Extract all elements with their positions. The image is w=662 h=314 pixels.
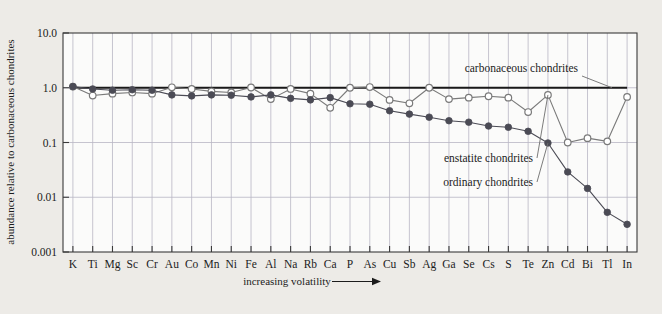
- data-point: [89, 92, 96, 99]
- data-point: [109, 87, 116, 94]
- x-category-label-zn: Zn: [542, 258, 555, 270]
- x-category-label-sb: Sb: [403, 258, 415, 270]
- x-category-label-cr: Cr: [146, 258, 158, 270]
- x-category-label-rb: Rb: [304, 258, 318, 270]
- data-point: [465, 119, 472, 126]
- annotation-ordinary-chondrites: ordinary chondrites: [443, 176, 533, 189]
- data-point: [188, 86, 195, 93]
- data-point: [70, 83, 77, 90]
- data-point: [446, 117, 453, 124]
- data-point: [485, 93, 492, 100]
- x-category-label-s: S: [505, 258, 511, 270]
- data-point: [485, 123, 492, 130]
- x-category-label-ag: Ag: [422, 258, 436, 271]
- x-category-label-as: As: [363, 258, 376, 270]
- data-point: [525, 128, 532, 135]
- x-category-label-ni: Ni: [225, 258, 237, 270]
- x-category-label-ga: Ga: [442, 258, 455, 270]
- abundance-log-chart: 10.01.00.10.010.001 KTiMgScCrAuCoMnNiFeA…: [0, 0, 662, 314]
- data-point: [89, 86, 96, 93]
- data-point: [347, 100, 354, 107]
- data-point: [268, 92, 275, 99]
- chondrite-abundance-figure: 10.01.00.10.010.001 KTiMgScCrAuCoMnNiFeA…: [0, 0, 662, 314]
- annotation-enstatite-chondrites: enstatite chondrites: [444, 152, 534, 164]
- x-category-label-sc: Sc: [127, 258, 139, 270]
- data-point: [505, 94, 512, 101]
- data-point: [248, 94, 255, 101]
- y-tick-label: 0.1: [43, 137, 58, 149]
- data-point: [624, 94, 631, 101]
- data-point: [564, 169, 571, 176]
- x-category-label-mn: Mn: [203, 258, 219, 270]
- data-point: [505, 124, 512, 131]
- data-point: [366, 101, 373, 108]
- data-point: [584, 185, 591, 192]
- data-point: [188, 93, 195, 100]
- data-point: [386, 107, 393, 114]
- data-point: [525, 109, 532, 116]
- x-category-label-ca: Ca: [324, 258, 337, 270]
- data-point: [129, 86, 136, 93]
- data-point: [426, 84, 433, 91]
- data-point: [366, 84, 373, 91]
- data-point: [307, 97, 314, 104]
- data-point: [307, 90, 314, 97]
- y-tick-label: 1.0: [43, 82, 58, 94]
- data-point: [426, 114, 433, 121]
- data-point: [169, 84, 176, 91]
- data-point: [169, 92, 176, 99]
- x-category-label-au: Au: [165, 258, 179, 270]
- x-category-label-te: Te: [522, 258, 533, 270]
- data-point: [287, 95, 294, 102]
- data-point: [584, 135, 591, 142]
- data-point: [327, 105, 334, 112]
- x-axis-category-labels: KTiMgScCrAuCoMnNiFeAlNaRbCaPAsCuSbAgGaSe…: [69, 258, 632, 271]
- x-category-label-na: Na: [284, 258, 297, 270]
- x-category-label-bi: Bi: [582, 258, 593, 270]
- data-point: [604, 209, 611, 216]
- data-point: [624, 221, 631, 228]
- x-category-label-co: Co: [185, 258, 199, 270]
- data-point: [564, 139, 571, 146]
- data-point: [287, 86, 294, 93]
- data-point: [347, 84, 354, 91]
- x-category-label-cd: Cd: [561, 258, 575, 270]
- data-point: [327, 94, 334, 101]
- x-category-label-mg: Mg: [104, 258, 120, 271]
- data-point: [604, 138, 611, 145]
- y-tick-label: 10.0: [37, 27, 57, 39]
- x-category-label-k: K: [69, 258, 78, 270]
- data-point: [248, 84, 255, 91]
- y-tick-label: 0.01: [37, 191, 57, 203]
- x-category-label-cu: Cu: [383, 258, 397, 270]
- x-category-label-p: P: [347, 258, 353, 270]
- x-category-label-al: Al: [265, 258, 277, 270]
- data-point: [149, 87, 156, 94]
- x-category-label-se: Se: [463, 258, 475, 270]
- annotation-carbonaceous-chondrites: carbonaceous chondrites: [465, 62, 579, 74]
- x-category-label-in: In: [622, 258, 632, 270]
- data-point: [386, 97, 393, 104]
- x-category-label-tl: Tl: [602, 258, 612, 270]
- y-axis-title: abundance relative to carbonaceous chond…: [4, 39, 16, 244]
- data-point: [228, 92, 235, 99]
- x-category-label-cs: Cs: [482, 258, 495, 270]
- data-point: [465, 94, 472, 101]
- data-point: [406, 100, 413, 107]
- data-point: [406, 111, 413, 118]
- x-axis-title: increasing volatility: [243, 275, 331, 287]
- data-point: [446, 96, 453, 103]
- x-category-label-fe: Fe: [245, 258, 257, 270]
- data-point: [208, 92, 215, 99]
- y-tick-label: 0.001: [31, 246, 57, 258]
- x-category-label-ti: Ti: [88, 258, 98, 270]
